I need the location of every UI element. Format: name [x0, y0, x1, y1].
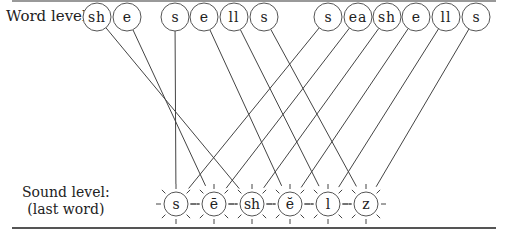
word-node-text: ea — [349, 9, 368, 25]
word-node: e — [190, 3, 218, 31]
sound-node-text: ĕ — [286, 196, 294, 212]
connection-line — [189, 28, 320, 189]
word-node-text: e — [412, 9, 420, 25]
word-node-text: e — [123, 9, 131, 25]
word-node: s — [250, 3, 278, 31]
connection-line — [339, 29, 439, 187]
word-node: sh — [83, 3, 111, 31]
sound-node-text: s — [172, 196, 179, 212]
word-node: e — [402, 3, 430, 31]
connection-line — [240, 30, 319, 187]
word-node-text: s — [472, 9, 479, 25]
connection-line — [271, 29, 357, 186]
word-node-text: ll — [229, 9, 240, 25]
connection-line — [133, 30, 206, 186]
word-node-text: s — [324, 9, 331, 25]
bottom-rule — [12, 227, 496, 229]
word-node: s — [314, 3, 342, 31]
sound-node-text: ē — [210, 196, 218, 212]
word-node: s — [462, 3, 490, 31]
word-node-text: s — [260, 9, 267, 25]
connection-line — [264, 28, 379, 187]
connection-line — [175, 31, 176, 184]
word-node: e — [113, 3, 141, 31]
sound-node-text: z — [362, 196, 369, 212]
sound-node-text: sh — [244, 196, 260, 212]
connection-line — [376, 29, 469, 187]
word-sound-mapping-diagram: shesellsseashellssēshĕlz — [0, 0, 506, 239]
word-node: s — [161, 3, 189, 31]
word-node-text: ll — [441, 9, 452, 25]
connection-line — [301, 29, 408, 188]
word-node: ll — [220, 3, 248, 31]
word-node: sh — [373, 3, 401, 31]
word-node: ll — [432, 3, 460, 31]
word-node-text: e — [200, 9, 208, 25]
connection-line — [106, 28, 239, 189]
sound-node-text: l — [326, 196, 331, 212]
word-node-text: s — [171, 9, 178, 25]
word-node-text: sh — [378, 9, 396, 25]
connection-line — [226, 28, 349, 188]
connection-lines — [106, 28, 469, 189]
word-node: ea — [344, 3, 372, 31]
word-node-text: sh — [88, 9, 106, 25]
